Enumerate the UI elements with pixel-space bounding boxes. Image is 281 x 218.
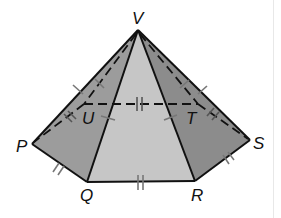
vertex-label-q: Q: [80, 186, 93, 205]
vertex-label-r: R: [191, 186, 203, 205]
edge-qr: [87, 181, 195, 182]
hexagonal-pyramid-diagram: V P Q R S T U: [0, 0, 281, 218]
vertex-label-s: S: [253, 134, 265, 153]
vertex-label-p: P: [16, 137, 28, 156]
vertex-label-u: U: [82, 109, 95, 128]
vertex-label-t: T: [186, 109, 198, 128]
vertex-label-v: V: [132, 9, 145, 28]
